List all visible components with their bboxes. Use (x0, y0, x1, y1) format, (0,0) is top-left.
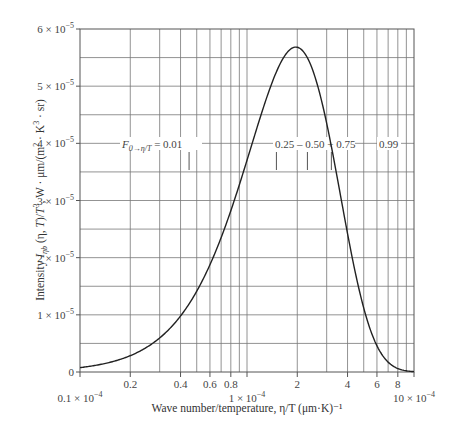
x-tick-label: 4 (345, 378, 351, 390)
x-tick-label: 0.4 (174, 378, 188, 390)
chart: F0→η/T = 0.010.25 – 0.50 + 0.750.99 01 ×… (0, 0, 454, 434)
y-tick-label: 6 × 10−5 (37, 21, 74, 35)
fraction-annotations: F0→η/T = 0.010.25 – 0.50 + 0.750.99 (120, 137, 401, 170)
x-tick-label: 2 (295, 378, 301, 390)
x-tick-label: 0.2 (123, 378, 137, 390)
y-tick-label: 5 × 10−5 (37, 78, 74, 92)
x-tick-label: 6 (374, 378, 380, 390)
y-tick-label: 1 × 10−5 (37, 307, 74, 321)
x-tick-label: 10 × 10−4 (393, 390, 435, 404)
x-tick-label: 0.6 (203, 378, 217, 390)
y-tick-label: 0 (69, 366, 75, 378)
grid (80, 29, 414, 372)
annotation-fraction-0.99: 0.99 (379, 138, 399, 150)
x-tick-label: 0.8 (224, 378, 238, 390)
x-tick-label: 0.1 × 10−4 (58, 390, 103, 404)
x-tick-label: 8 (395, 378, 401, 390)
annotation-fractions-mid: 0.25 – 0.50 + 0.75 (275, 138, 356, 150)
x-axis-ticks: 0.1 × 10−40.20.40.60.81 × 10−4246810 × 1… (58, 372, 436, 404)
x-axis-title: Wave number/temperature, η/T (μm·K)⁻¹ (151, 402, 343, 415)
